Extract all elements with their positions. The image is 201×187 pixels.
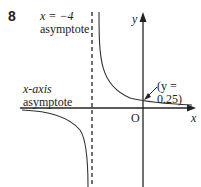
vertical-asymptote-label-2: asymptote [40,23,89,36]
horizontal-asymptote-label-2: asymptote [23,96,72,109]
origin-label: O [131,112,140,125]
curve-left-branch [22,110,88,187]
y-intercept-label: (y = 0.25) [157,80,201,106]
y-axis-label: y [132,13,137,26]
x-axis-label: x [191,112,196,125]
y-axis-arrow-icon [140,12,147,22]
